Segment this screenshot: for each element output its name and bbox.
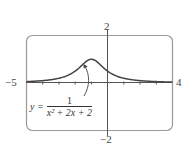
equation-numerator: 1 — [67, 95, 72, 106]
y-min-label: −2 — [100, 134, 112, 145]
x-max-label: 4 — [176, 77, 182, 88]
function-equation: y = 1 x² + 2x + 2 — [30, 95, 92, 118]
annotation-arrow — [84, 65, 89, 96]
equation-lhs: y = — [30, 101, 44, 112]
equation-fraction: 1 x² + 2x + 2 — [47, 95, 92, 118]
x-min-label: −5 — [5, 77, 17, 88]
equation-denominator: x² + 2x + 2 — [47, 107, 92, 118]
function-curve — [27, 59, 173, 82]
graph-window — [0, 0, 191, 150]
y-max-label: 2 — [104, 21, 110, 32]
